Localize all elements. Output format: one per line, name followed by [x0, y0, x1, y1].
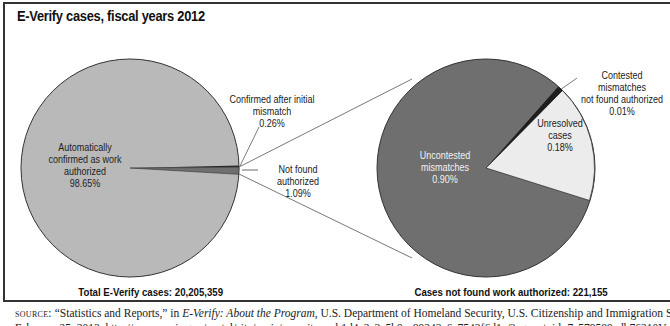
label-line: confirmed as work — [40, 154, 130, 166]
label-line: authorized — [40, 166, 130, 178]
label-unresolved: Unresolved cases 0.18% — [529, 118, 592, 154]
label-value: 0.01% — [577, 106, 667, 118]
source-line-1: source: “Statistics and Reports,” in E-V… — [15, 306, 670, 321]
label-contested: Contested mismatches not found authorize… — [577, 70, 667, 118]
label-line: Uncontested — [409, 150, 481, 162]
leader-confirmed — [240, 127, 259, 166]
label-not-found-authorized: Not found authorized 1.09% — [262, 164, 334, 200]
source-prefix: source: — [15, 307, 52, 319]
label-confirmed-after-mismatch: Confirmed after initial mismatch 0.26% — [227, 94, 317, 130]
left-pie-caption: Total E-Verify cases: 20,205,359 — [78, 286, 223, 298]
label-line: Automatically — [40, 142, 130, 154]
label-line: not found authorized — [577, 94, 667, 106]
label-line: mismatch — [227, 106, 317, 118]
source-line-2: February 25, 2013, http://www.uscis.gov/… — [15, 321, 670, 326]
source-text: “Statistics and Reports,” in — [52, 307, 182, 319]
label-value: 98.65% — [40, 178, 130, 190]
label-line: Not found authorized — [262, 164, 334, 188]
source-title: E-Verify: About the Program — [182, 307, 315, 319]
label-value: 0.18% — [529, 142, 592, 154]
label-line: Contested mismatches — [577, 70, 667, 94]
label-value: 0.90% — [409, 174, 481, 186]
label-line: Confirmed after initial — [227, 94, 317, 106]
source-text: , U.S. Department of Homeland Security, … — [315, 307, 670, 319]
label-value: 1.09% — [262, 188, 334, 200]
label-auto-confirmed: Automatically confirmed as work authoriz… — [40, 142, 130, 190]
right-pie-caption: Cases not found work authorized: 221,155 — [414, 286, 607, 298]
label-uncontested: Uncontested mismatches 0.90% — [409, 150, 481, 186]
source-note: source: “Statistics and Reports,” in E-V… — [15, 306, 670, 326]
leader-contested — [560, 78, 577, 90]
label-line: mismatches — [409, 162, 481, 174]
label-line: Unresolved — [529, 118, 592, 130]
label-line: cases — [529, 130, 592, 142]
label-value: 0.26% — [227, 118, 317, 130]
